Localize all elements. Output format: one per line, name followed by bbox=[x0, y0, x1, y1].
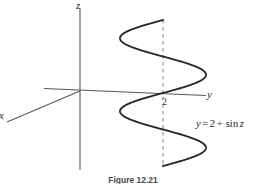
equation-sin: sin bbox=[224, 118, 238, 129]
x-axis-label: x bbox=[0, 110, 4, 121]
tick-label-two: 2 bbox=[162, 97, 167, 107]
figure-container: z y x 2 y=2+sinz Figure 12.21 bbox=[0, 0, 266, 184]
curve-equation-label: y=2+sinz bbox=[196, 119, 244, 130]
equation-plus: + bbox=[215, 118, 224, 129]
coordinate-plot-svg bbox=[0, 0, 266, 184]
equation-equals: = bbox=[201, 118, 210, 129]
z-axis-label: z bbox=[76, 0, 80, 11]
equation-variable: z bbox=[238, 118, 244, 129]
figure-caption: Figure 12.21 bbox=[0, 175, 266, 184]
y-axis-label: y bbox=[207, 89, 212, 100]
